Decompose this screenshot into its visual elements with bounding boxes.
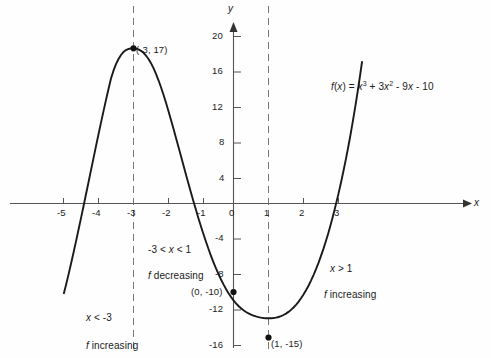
label-local-max: (-3, 17)	[136, 44, 167, 55]
equation-equals: =	[346, 81, 358, 92]
x-tick-label-neg2: -2	[162, 207, 171, 218]
y-tick-label-20: 20	[212, 30, 223, 41]
x-tick-label-3: 3	[334, 207, 339, 218]
x-tick-label-neg4: -4	[92, 207, 101, 218]
y-tick-label-8: 8	[219, 136, 224, 147]
y-tick-label-neg16: -16	[209, 339, 223, 350]
annotation-middle-prefix: -3 <	[148, 244, 169, 255]
label-y-intercept: (0, -10)	[191, 286, 222, 297]
x-axis-ticks	[64, 198, 339, 203]
y-tick-label-16: 16	[212, 65, 223, 76]
x-tick-label-2: 2	[299, 207, 304, 218]
function-equation: f(x) = x3 + 3x2 - 9x - 10	[331, 81, 434, 92]
graph-figure: y x 20 16 12 8 4 -4 -8 -12 -16 -5 -4 -3 …	[0, 0, 491, 358]
annotation-right-condition: > 1	[335, 263, 352, 274]
x-axis	[10, 200, 472, 208]
cubic-function-plot	[0, 0, 491, 358]
annotation-middle-behavior: f decreasing	[148, 270, 204, 281]
annotation-right-behavior: f increasing	[324, 289, 376, 300]
equation-term3-coef: - 9	[393, 81, 408, 92]
x-tick-label-neg5: -5	[57, 207, 66, 218]
function-curve	[64, 48, 362, 318]
x-tick-label-neg3: -3	[127, 207, 136, 218]
x-axis-arrowhead	[463, 200, 472, 208]
annotation-left-state: increasing	[89, 340, 138, 351]
annotation-middle-condition: < 1	[174, 244, 191, 255]
annotation-left-behavior: f increasing	[86, 340, 138, 351]
y-tick-label-neg8: -8	[215, 268, 224, 279]
equation-constant: - 10	[413, 81, 434, 92]
annotation-middle-interval: -3 < x < 1	[148, 244, 191, 255]
annotation-right-interval: x > 1	[330, 263, 352, 274]
y-tick-label-4: 4	[219, 172, 224, 183]
x-axis-label: x	[474, 197, 479, 208]
annotation-left-interval: x < -3	[86, 312, 112, 323]
y-axis-label: y	[228, 3, 233, 14]
label-local-min: (1, -15)	[271, 338, 302, 349]
y-axis-arrowhead	[230, 22, 238, 32]
x-tick-label-1: 1	[264, 207, 269, 218]
annotation-left-condition: < -3	[91, 312, 112, 323]
equation-term2-coef: + 3	[367, 81, 384, 92]
y-tick-label-12: 12	[212, 101, 223, 112]
point-y-intercept	[230, 289, 236, 295]
y-tick-label-neg4: -4	[215, 232, 224, 243]
annotation-middle-state: decreasing	[151, 270, 204, 281]
x-tick-label-0: 0	[229, 207, 234, 218]
y-axis-ticks	[234, 37, 242, 346]
x-tick-label-neg1: -1	[197, 207, 206, 218]
annotation-right-state: increasing	[327, 289, 376, 300]
y-tick-label-neg12: -12	[209, 303, 223, 314]
